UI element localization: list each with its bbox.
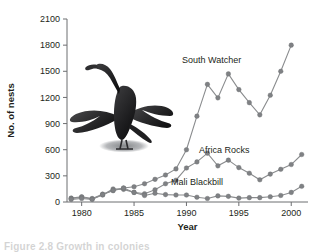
data-point <box>163 192 168 197</box>
data-point <box>226 72 231 77</box>
y-tick-label: 1200 <box>40 93 60 103</box>
series-path <box>71 45 291 198</box>
data-point <box>258 195 263 200</box>
data-point <box>79 196 84 201</box>
y-tick-label: 1800 <box>40 40 60 50</box>
data-point <box>289 43 294 48</box>
data-point <box>163 173 168 178</box>
data-point <box>247 100 252 105</box>
data-point <box>237 196 242 201</box>
data-point <box>195 160 200 165</box>
data-point <box>289 162 294 167</box>
data-point <box>278 167 283 172</box>
data-point <box>268 93 273 98</box>
y-tick-label: 1500 <box>40 66 60 76</box>
data-point <box>205 82 210 87</box>
series-label-2: Mali Blackbill <box>171 177 223 187</box>
figure-caption: Figure 2.8 Growth in colonies <box>4 241 150 252</box>
data-point <box>258 113 263 118</box>
data-point <box>184 193 189 198</box>
data-point <box>247 171 252 176</box>
data-point <box>205 196 210 201</box>
x-tick-label: 1985 <box>124 208 144 218</box>
y-tick-label: 900 <box>45 119 60 129</box>
y-axis-title: No. of nests <box>5 83 16 137</box>
data-point <box>100 192 105 197</box>
data-point <box>226 194 231 199</box>
data-point <box>195 195 200 200</box>
data-point <box>195 114 200 119</box>
y-tick-label: 300 <box>45 171 60 181</box>
data-point <box>258 177 263 182</box>
data-point <box>184 147 189 152</box>
data-point <box>237 165 242 170</box>
data-point <box>163 181 168 186</box>
data-point <box>289 190 294 195</box>
series-label-1: Africa Rocks <box>199 145 250 155</box>
data-point <box>216 96 221 101</box>
data-point <box>278 193 283 198</box>
data-point <box>174 167 179 172</box>
series-label-0: South Watcher <box>182 55 241 65</box>
data-point <box>247 195 252 200</box>
y-tick-label: 0 <box>55 197 60 207</box>
data-point <box>299 184 304 189</box>
data-point <box>278 69 283 74</box>
data-point <box>90 197 95 202</box>
data-point <box>142 181 147 186</box>
x-tick-label: 1995 <box>229 208 249 218</box>
data-point <box>69 197 74 202</box>
data-point <box>132 184 137 189</box>
y-tick-label: 2100 <box>40 14 60 24</box>
data-point <box>153 177 158 182</box>
data-point <box>216 164 221 169</box>
data-point <box>121 186 126 191</box>
data-point <box>268 172 273 177</box>
data-point <box>216 194 221 199</box>
data-point <box>299 152 304 157</box>
data-point <box>111 188 116 193</box>
data-point <box>184 166 189 171</box>
data-point <box>132 190 137 195</box>
x-axis-title: Year <box>177 221 197 232</box>
data-point <box>237 87 242 92</box>
y-tick-label: 600 <box>45 145 60 155</box>
x-tick-label: 2000 <box>281 208 301 218</box>
data-point <box>174 193 179 198</box>
data-point <box>142 193 147 198</box>
data-point <box>226 158 231 163</box>
x-tick-label: 1980 <box>72 208 92 218</box>
data-point <box>153 191 158 196</box>
x-tick-label: 1990 <box>176 208 196 218</box>
data-point <box>268 194 273 199</box>
